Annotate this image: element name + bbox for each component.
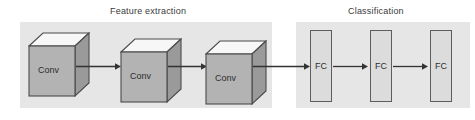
fc-block-3[interactable]: FC — [430, 30, 452, 102]
cube-front-face — [29, 46, 75, 96]
cube-front-face — [206, 54, 252, 104]
diagram-canvas: Feature extraction Classification Conv C… — [0, 0, 475, 120]
fc-block-3-label: FC — [435, 61, 447, 71]
fc-block-1-label: FC — [315, 61, 327, 71]
arrow-conv3-to-fc1 — [253, 62, 311, 71]
fc-block-2-label: FC — [375, 61, 387, 71]
section-title-classification: Classification — [348, 6, 404, 16]
conv-block-2[interactable]: Conv — [120, 38, 182, 104]
fc-block-1[interactable]: FC — [310, 30, 332, 102]
arrow-fc1-to-fc2 — [333, 62, 369, 71]
conv-block-3[interactable]: Conv — [205, 40, 267, 106]
section-title-feature-extraction: Feature extraction — [110, 6, 186, 16]
cube-front-face — [121, 52, 167, 102]
arrow-conv1-to-conv2 — [76, 62, 122, 71]
fc-block-2[interactable]: FC — [370, 30, 392, 102]
arrow-fc2-to-fc3 — [393, 62, 429, 71]
arrow-conv2-to-conv3 — [168, 62, 208, 71]
